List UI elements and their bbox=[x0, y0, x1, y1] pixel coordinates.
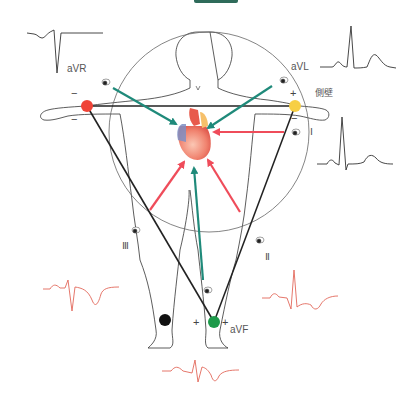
avf-arrow bbox=[194, 168, 203, 280]
lead-i-label: Ⅰ bbox=[310, 127, 313, 137]
left-arm-minus: − bbox=[291, 113, 297, 124]
ecg-avr bbox=[27, 30, 103, 73]
lead-ii-label: Ⅱ bbox=[265, 252, 270, 262]
lead-ii-arrow bbox=[208, 160, 240, 212]
left-arm-plus: + bbox=[290, 88, 296, 99]
ecg-lead-iii bbox=[43, 280, 119, 311]
lead-iii-arrow bbox=[150, 162, 184, 210]
ecg-avl bbox=[320, 26, 396, 68]
ecg-avf bbox=[162, 360, 239, 382]
ecg-lead-ii bbox=[262, 270, 338, 309]
avl-arrow bbox=[208, 86, 272, 128]
right-arm-minus-bottom: − bbox=[71, 114, 77, 125]
right-arm-electrode bbox=[81, 100, 93, 112]
right-leg-electrode bbox=[159, 314, 171, 326]
diagram-canvas bbox=[0, 0, 417, 410]
ecg-lead-i bbox=[317, 117, 393, 170]
limb-lead-arrows bbox=[150, 132, 284, 212]
lateral-wall-label: 側壁 bbox=[315, 89, 333, 98]
left-leg-plus-right: + bbox=[222, 317, 228, 328]
left-arm-electrode bbox=[289, 100, 301, 112]
avr-label: aVR bbox=[67, 64, 86, 74]
right-arm-minus-top: − bbox=[71, 88, 77, 99]
ecg-lead-diagram: aVR aVL aVF 側壁 Ⅰ Ⅱ Ⅲ − − + − + + bbox=[0, 0, 417, 410]
left-leg-electrode bbox=[208, 316, 220, 328]
avl-label: aVL bbox=[291, 62, 309, 72]
left-leg-plus-left: + bbox=[193, 317, 199, 328]
heart-icon bbox=[177, 108, 211, 160]
lead-iii-label: Ⅲ bbox=[122, 241, 129, 251]
avf-label: aVF bbox=[230, 325, 248, 335]
